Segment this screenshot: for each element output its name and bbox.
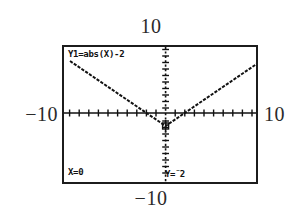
window-xmin-label: −10 xyxy=(6,104,58,124)
trace-y-value: 2 xyxy=(180,169,185,179)
trace-cursor xyxy=(163,120,169,132)
equation-label: Y1=abs(X)-2 xyxy=(67,49,125,59)
window-xmax-label: 10 xyxy=(264,104,302,124)
window-ymin-label: −10 xyxy=(0,188,302,208)
calculator-display[interactable]: Y1=abs(X)-2 X=0 Y=⁻2 xyxy=(62,45,258,184)
trace-y-prefix: Y= xyxy=(165,169,175,179)
calculator-screenshot: 10 −10 10 −10 xyxy=(0,0,302,221)
window-ymax-label: 10 xyxy=(0,16,302,36)
trace-y-readout: Y=⁻2 xyxy=(164,167,186,179)
graph-plot xyxy=(64,47,256,182)
trace-x-readout: X=0 xyxy=(67,167,84,177)
